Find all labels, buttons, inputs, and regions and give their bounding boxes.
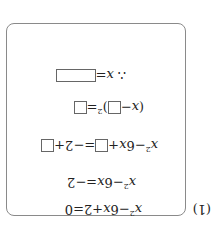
answer-blank-4[interactable] (74, 102, 87, 115)
answer-blank-3[interactable] (108, 102, 121, 115)
problem-number: (1) (193, 202, 211, 217)
answer-blank-2[interactable] (41, 140, 54, 153)
answer-blank-1[interactable] (95, 140, 108, 153)
equation-step-5: ∴ x= (56, 67, 126, 85)
equation-step-1: x2−6x+2=0 (65, 201, 142, 219)
equation-step-3: x2−6x+ =−2+ (41, 137, 158, 155)
answer-blank-5[interactable] (56, 70, 96, 83)
rotated-worksheet: (1) x2−6x+2=0 x2−6x=−2 x2−6x+ =−2+ (x− )… (0, 0, 214, 229)
equation-step-4: (x− )2= (74, 99, 144, 117)
equation-step-2: x2−6x=−2 (67, 174, 136, 192)
